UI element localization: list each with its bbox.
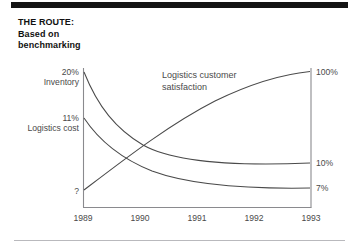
series-line-logistics-cost: [84, 118, 310, 188]
annotation-satisfaction-line-1: Logistics customer: [162, 70, 237, 80]
left-label-logistics-cost-name: Logistics cost: [27, 123, 79, 133]
left-label-unknown: ?: [74, 186, 79, 196]
x-axis-tick-1989: 1989: [73, 213, 92, 223]
left-label-logistics-cost-value: 11%: [62, 113, 79, 123]
x-axis-tick-1992: 1992: [244, 213, 263, 223]
line-chart: 20% Inventory 11% Logistics cost ? 100% …: [0, 0, 358, 250]
x-axis-tick-1990: 1990: [130, 213, 149, 223]
right-label-inventory-end: 10%: [316, 158, 334, 168]
figure-container: THE ROUTE: Based on benchmarking 20% Inv…: [0, 0, 358, 250]
right-label-satisfaction-end: 100%: [316, 67, 338, 77]
left-label-inventory-name: Inventory: [44, 77, 80, 87]
left-label-inventory-value: 20%: [62, 67, 80, 77]
annotation-satisfaction-line-2: satisfaction: [162, 82, 207, 92]
bottom-divider: [14, 240, 345, 241]
right-label-logistics-cost-end: 7%: [316, 183, 329, 193]
x-axis-tick-1991: 1991: [187, 213, 206, 223]
x-axis-tick-1993: 1993: [301, 213, 320, 223]
